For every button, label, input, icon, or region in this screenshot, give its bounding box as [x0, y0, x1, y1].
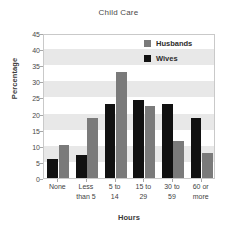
x-tick-label-line: more — [182, 192, 219, 202]
bar-group — [101, 35, 130, 178]
y-tick-label: 45 — [0, 31, 40, 38]
bar-husbands — [59, 145, 70, 178]
legend-item: Husbands — [144, 39, 192, 48]
legend-item: Wives — [144, 54, 192, 63]
y-tick-label: 25 — [0, 95, 40, 102]
bar-group — [44, 35, 73, 178]
y-tick-label: 0 — [0, 176, 40, 183]
legend-swatch-icon — [144, 55, 151, 62]
y-tick-label: 35 — [0, 63, 40, 70]
bar-wives — [162, 104, 173, 178]
y-tick-label: 20 — [0, 111, 40, 118]
x-axis-label: Hours — [43, 213, 215, 222]
x-tick-label-line: 60 or — [182, 182, 219, 192]
bar-wives — [47, 159, 58, 178]
bar-wives — [76, 155, 87, 178]
bar-group — [73, 35, 102, 178]
chart-title: Child Care — [0, 8, 237, 17]
legend-label: Husbands — [156, 39, 192, 48]
bar-husbands — [145, 106, 156, 178]
bar-husbands — [173, 141, 184, 178]
bar-husbands — [87, 118, 98, 178]
y-tick-label: 15 — [0, 127, 40, 134]
y-tick-label: 40 — [0, 47, 40, 54]
bar-wives — [105, 104, 116, 178]
y-tick-label: 5 — [0, 159, 40, 166]
x-tick-label: 60 ormore — [182, 182, 219, 201]
bar-wives — [191, 118, 202, 178]
bar-husbands — [116, 72, 127, 178]
y-tick-label: 30 — [0, 79, 40, 86]
y-tick-mark — [39, 179, 43, 180]
y-tick-label: 10 — [0, 143, 40, 150]
bar-wives — [133, 100, 144, 178]
child-care-bar-chart: Child Care Percentage 051015202530354045… — [0, 0, 237, 229]
chart-legend: HusbandsWives — [144, 39, 192, 69]
legend-swatch-icon — [144, 40, 151, 47]
legend-label: Wives — [156, 54, 178, 63]
bar-husbands — [202, 153, 213, 178]
